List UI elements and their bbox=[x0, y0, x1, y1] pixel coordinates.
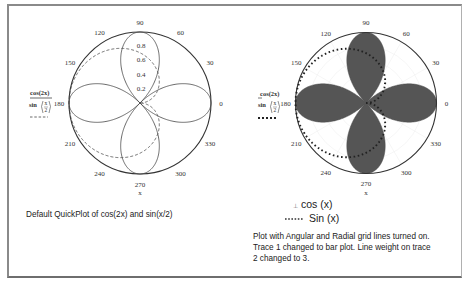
right-legend-trace1: cos(2x) bbox=[260, 90, 280, 98]
radial-tick-label: 0.8 bbox=[137, 42, 146, 50]
left-legend: cos(2x) sin x 2 bbox=[29, 89, 52, 117]
right-polar-plot[interactable]: 0306090120150180210240270300330 x cos(2x… bbox=[258, 19, 449, 219]
right-caption: Plot with Angular and Radial grid lines … bbox=[253, 231, 458, 264]
angle-tick-label: 150 bbox=[65, 59, 76, 67]
angle-tick-label: 0 bbox=[219, 100, 223, 108]
bar-trace-key-icon: ⊥ bbox=[293, 203, 298, 209]
left-caption: Default QuickPlot of cos(2x) and sin(x/2… bbox=[26, 209, 173, 220]
right-legend-trace2-den: 2 bbox=[274, 107, 277, 113]
radial-tick-label: 0.6 bbox=[137, 56, 146, 64]
radial-tick-label: 0.4 bbox=[137, 71, 146, 79]
angle-tick-label: 210 bbox=[291, 140, 302, 148]
angle-tick-label: 150 bbox=[291, 59, 302, 67]
angle-tick-label: 120 bbox=[321, 30, 332, 38]
left-legend-trace1: cos(2x) bbox=[30, 89, 50, 97]
angle-tick-label: 300 bbox=[175, 170, 186, 178]
angle-tick-label: 330 bbox=[205, 140, 216, 148]
angle-tick-label: 210 bbox=[65, 140, 76, 148]
left-legend-paren-close bbox=[49, 101, 51, 113]
right-legend-trace2-fn: sin bbox=[258, 101, 266, 108]
left-radial-tick-labels: 0.20.40.60.8 bbox=[137, 42, 146, 93]
angle-tick-label: 300 bbox=[401, 169, 412, 177]
left-legend-trace2-den: 2 bbox=[45, 107, 48, 113]
right-caption-line: Trace 1 changed to bar plot. Line weight… bbox=[253, 242, 458, 253]
right-caption-line: 2 changed to 3. bbox=[253, 253, 458, 264]
angle-tick-label: 180 bbox=[54, 100, 65, 108]
left-trace-sinx2 bbox=[69, 48, 159, 157]
right-legend: cos(2x) sin x 2 bbox=[258, 90, 280, 118]
angle-tick-label: 30 bbox=[432, 59, 440, 67]
right-legend-paren-open bbox=[271, 101, 273, 113]
angle-tick-label: 90 bbox=[137, 19, 145, 27]
angle-tick-label: 0 bbox=[445, 100, 449, 108]
right-x-axis-label: x bbox=[364, 189, 368, 197]
right-legend-trace2-num: x bbox=[274, 100, 277, 106]
angle-tick-label: 120 bbox=[94, 29, 105, 37]
angle-tick-label: 240 bbox=[320, 169, 331, 177]
left-legend-paren-open bbox=[42, 101, 44, 113]
radial-tick-label: 0.2 bbox=[137, 85, 146, 93]
angle-tick-label: 330 bbox=[430, 140, 441, 148]
left-polar-plot[interactable]: 0306090120150180210240270300330 0.20.40.… bbox=[29, 19, 223, 198]
angle-tick-label: 60 bbox=[403, 30, 411, 38]
left-legend-trace2-num: x bbox=[45, 100, 48, 106]
key-trace1-label: cos (x) bbox=[301, 198, 333, 210]
angle-tick-label: 90 bbox=[363, 19, 371, 27]
angle-tick-label: 180 bbox=[280, 100, 291, 108]
angle-tick-label: 270 bbox=[361, 180, 372, 188]
angle-tick-label: 60 bbox=[177, 29, 185, 37]
angle-tick-label: 240 bbox=[94, 170, 105, 178]
right-caption-line: Plot with Angular and Radial grid lines … bbox=[253, 231, 458, 242]
left-x-axis-label: x bbox=[138, 189, 142, 197]
angle-tick-label: 270 bbox=[135, 181, 146, 189]
left-legend-trace2-fn: sin bbox=[29, 101, 37, 108]
key-trace2-label: Sin (x) bbox=[309, 212, 339, 224]
angle-tick-label: 30 bbox=[207, 59, 215, 67]
